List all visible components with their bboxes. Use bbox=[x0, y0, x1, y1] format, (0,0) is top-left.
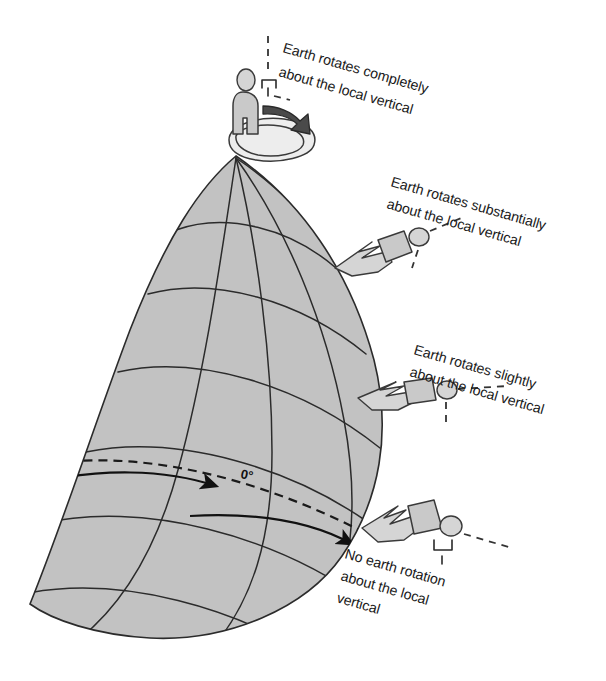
diagram-canvas: 0° Earth rotates completely about the lo… bbox=[0, 0, 606, 681]
globe-surface bbox=[30, 156, 382, 638]
figure-high-latitude-group bbox=[335, 228, 429, 276]
annotation-equator-line3: vertical bbox=[335, 590, 382, 618]
leader-line-equator bbox=[464, 534, 512, 548]
annotation-pole: Earth rotates completely about the local… bbox=[277, 40, 431, 118]
earth-rotation-diagram: 0° Earth rotates completely about the lo… bbox=[0, 0, 606, 681]
vertical-tick-equator bbox=[434, 540, 452, 550]
figure-head-equator bbox=[440, 516, 462, 536]
local-vertical-high bbox=[412, 250, 418, 268]
annotation-equator: No earth rotation about the local vertic… bbox=[335, 546, 447, 618]
leader-line-pole-2 bbox=[274, 96, 290, 100]
annotation-mid-latitude: Earth rotates slightly about the local v… bbox=[408, 342, 546, 418]
figure-body-equator bbox=[408, 500, 442, 534]
figure-head-pole bbox=[237, 69, 255, 91]
figure-head-high bbox=[409, 228, 429, 246]
vertical-tick-pole bbox=[262, 80, 276, 88]
